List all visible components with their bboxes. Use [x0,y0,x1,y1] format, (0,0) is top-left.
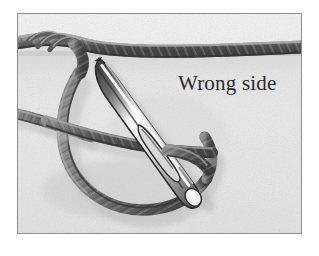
caption-wrong-side: Wrong side [178,72,302,95]
illustration-plate: Wrong side [17,13,302,234]
figure-page: Wrong side [0,0,319,256]
illustration-artwork [18,14,301,233]
